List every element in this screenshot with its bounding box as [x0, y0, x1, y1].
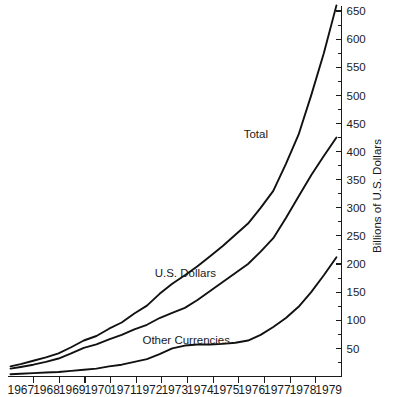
y-tick-label-100: 100 [347, 314, 366, 326]
y-tick-label-300: 300 [347, 202, 366, 214]
y-axis-title: Billions of U.S. Dollars [371, 139, 383, 253]
line-chart: 50100150200250300350400450500550600650 1… [0, 0, 397, 397]
series-lines [11, 5, 337, 374]
series-inline-labels: TotalU.S. DollarsOther Currencies [142, 128, 268, 346]
y-axis-major-ticks [336, 11, 342, 348]
y-tick-label-600: 600 [347, 33, 366, 45]
y-axis-tick-labels: 50100150200250300350400450500550600650 [347, 5, 366, 354]
y-tick-label-150: 150 [347, 286, 366, 298]
y-tick-label-650: 650 [347, 5, 366, 17]
y-tick-label-250: 250 [347, 230, 366, 242]
page-caption-partial [0, 389, 397, 397]
y-tick-label-200: 200 [347, 258, 366, 270]
y-tick-label-50: 50 [347, 343, 360, 355]
axis-frame [8, 6, 342, 377]
y-axis-minor-ticks [338, 25, 342, 362]
y-tick-label-350: 350 [347, 174, 366, 186]
chart-page: 50100150200250300350400450500550600650 1… [0, 0, 397, 397]
y-tick-label-550: 550 [347, 61, 366, 73]
y-tick-label-400: 400 [347, 146, 366, 158]
y-tick-label-450: 450 [347, 118, 366, 130]
series-label-other-currencies: Other Currencies [142, 334, 230, 346]
series-label-u-s-dollars: U.S. Dollars [155, 267, 217, 279]
y-tick-label-500: 500 [347, 90, 366, 102]
series-label-total: Total [244, 128, 268, 140]
